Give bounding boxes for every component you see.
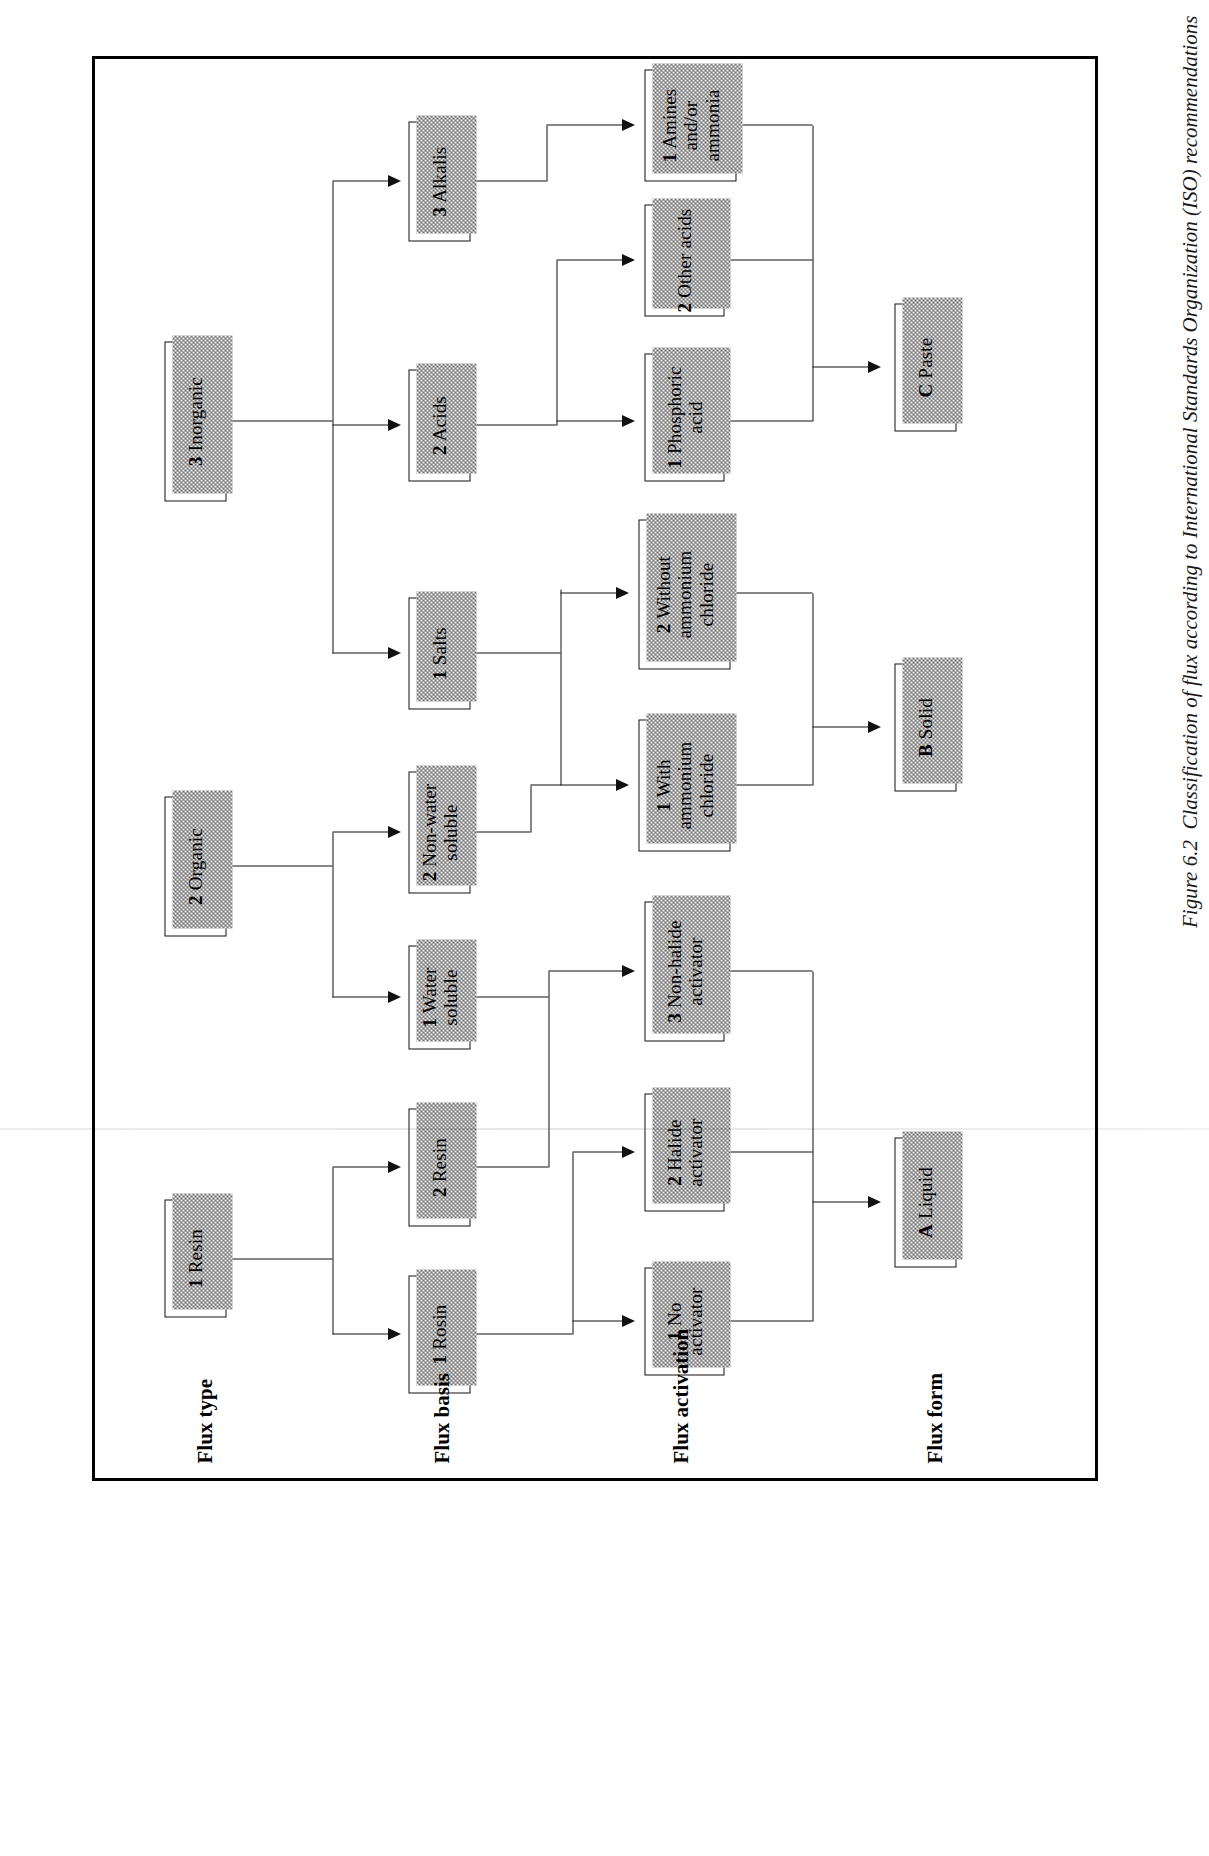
connector-alkalis-stem (470, 180, 546, 181)
figure-caption-number: Figure 6.2 (1178, 840, 1202, 928)
node-index: 2 (418, 871, 439, 881)
node-text: Water soluble (418, 967, 460, 1025)
connector-salts-to-without-nh4cl (560, 592, 622, 593)
arrow-to-halide-activator (622, 1146, 635, 1158)
node-text: Inorganic (184, 377, 205, 451)
node-form-solid[interactable]: B Solid (894, 663, 956, 791)
node-label: 1 Rosin (428, 1301, 449, 1367)
node-index: B (914, 744, 935, 757)
node-index: 3 (428, 206, 449, 216)
node-text: Amines and/or ammonia (658, 88, 722, 161)
connector-rosin-stem (470, 1333, 572, 1334)
node-index: 2 (428, 1187, 449, 1197)
connector-non-water-bus (530, 785, 531, 832)
connector-alkalis-to-amines (546, 124, 630, 125)
node-label: 3 Alkalis (428, 143, 449, 219)
node-index: 2 (184, 895, 205, 905)
node-index: 1 (428, 670, 449, 680)
node-label: 2 Organic (184, 825, 205, 908)
connector-with-nh4cl-down (730, 784, 812, 785)
node-text: Rosin (428, 1304, 449, 1349)
connector-rosin-to-halide (572, 1151, 628, 1152)
node-flux-basis-salts[interactable]: 1 Salts (408, 597, 470, 709)
node-index: 2 (428, 445, 449, 455)
connector-to-liquid (812, 1201, 872, 1202)
connector-type-resin-stem (226, 1258, 332, 1259)
node-text: Solid (914, 698, 935, 739)
node-index: 1 (428, 1354, 449, 1364)
node-index: 1 (663, 458, 684, 468)
connector-without-nh4cl-down (730, 592, 812, 593)
node-activation-non-halide-activator[interactable]: 3 Non-halide activator (644, 901, 724, 1041)
node-label: 2 Non-water soluble (418, 772, 461, 892)
node-text: Organic (184, 828, 205, 890)
node-label: A Liquid (914, 1164, 935, 1241)
node-label: C Paste (914, 334, 935, 400)
arrow-to-salts (388, 647, 401, 659)
stage-label-flux-type: Flux type (192, 1378, 217, 1463)
arrow-to-other-acids (622, 254, 635, 266)
flowchart-canvas: Flux type Flux basis Flux activation Flu… (92, 56, 1098, 1481)
connector-acids-stem (470, 424, 556, 425)
node-flux-basis-acids[interactable]: 2 Acids (408, 369, 470, 481)
node-index: 1 (658, 152, 679, 162)
node-activation-other-acids[interactable]: 2 Other acids (644, 204, 724, 316)
node-index: 2 (673, 302, 694, 312)
node-activation-halide-activator[interactable]: 2 Halide activator (644, 1093, 724, 1211)
node-text: Halide activator (663, 1118, 705, 1186)
connector-no-activator-down (724, 1320, 812, 1321)
node-flux-basis-resin[interactable]: 2 Resin (408, 1108, 470, 1226)
connector-basis-resin-to-nonhalide (548, 970, 628, 971)
node-activation-phosphoric-acid[interactable]: 1 Phosphoric acid (644, 353, 724, 481)
node-form-paste[interactable]: C Paste (894, 303, 956, 431)
node-index: 1 (652, 801, 673, 811)
connector-basis-resin-stem (470, 1166, 548, 1167)
node-activation-without-ammonium-chloride[interactable]: 2 Without ammonium chloride (638, 519, 730, 669)
connector-to-salts (332, 652, 394, 653)
connector-non-water-stem (470, 831, 530, 832)
connector-to-water-soluble (332, 996, 394, 997)
node-flux-basis-alkalis[interactable]: 3 Alkalis (408, 121, 470, 241)
arrow-to-basis-resin (388, 1161, 401, 1173)
connector-type-inorganic-stem (226, 420, 332, 421)
connector-paste-bus (812, 125, 813, 421)
stage-label-flux-form: Flux form (922, 1373, 947, 1463)
node-flux-basis-non-water-soluble[interactable]: 2 Non-water soluble (408, 771, 470, 893)
arrow-to-without-ammonium-chloride (616, 587, 629, 599)
arrow-to-with-ammonium-chloride (616, 779, 629, 791)
stage-label-flux-activation: Flux activation (668, 1328, 693, 1463)
node-text: Resin (184, 1229, 205, 1273)
node-activation-with-ammonium-chloride[interactable]: 1 With ammonium chloride (638, 719, 730, 851)
arrow-to-acids (388, 419, 401, 431)
arrow-to-paste (868, 361, 881, 373)
node-form-liquid[interactable]: A Liquid (894, 1137, 956, 1267)
arrow-to-no-activator (622, 1315, 635, 1327)
connector-basis-resin-bus (548, 971, 549, 1167)
arrow-to-water-soluble (388, 991, 401, 1003)
connector-rosin-to-no-activator (572, 1320, 628, 1321)
node-label: 1 Salts (428, 624, 449, 683)
node-flux-type-resin[interactable]: 1 Resin (164, 1199, 226, 1317)
node-text: Liquid (914, 1167, 935, 1219)
node-text: Alkalis (428, 146, 449, 202)
figure-caption: Figure 6.2 Classification of flux accord… (1178, 16, 1203, 928)
node-index: C (914, 383, 935, 397)
node-flux-basis-water-soluble[interactable]: 1 Water soluble (408, 945, 470, 1049)
node-flux-type-inorganic[interactable]: 3 Inorganic (164, 341, 226, 501)
node-index: 1 (418, 1017, 439, 1027)
connector-to-alkalis (332, 180, 394, 181)
node-index: 1 (184, 1278, 205, 1288)
stage-label-flux-basis: Flux basis (429, 1373, 454, 1463)
node-label: 1 With ammonium chloride (652, 720, 716, 850)
arrow-to-solid (868, 721, 881, 733)
connector-acids-to-other-acids (556, 259, 628, 260)
node-flux-type-organic[interactable]: 2 Organic (164, 796, 226, 936)
connector-type-organic-stem (226, 865, 332, 866)
connector-non-water-to-with-nh4cl (530, 784, 622, 785)
connector-type-inorganic-bus (332, 181, 333, 653)
node-label: 3 Non-halide activator (663, 902, 706, 1040)
connector-salts-bus (560, 589, 561, 785)
node-text: With ammonium chloride (652, 741, 716, 829)
arrow-to-non-water-soluble (388, 826, 401, 838)
node-activation-amines-ammonia[interactable]: 1 Amines and/or ammonia (644, 69, 736, 181)
